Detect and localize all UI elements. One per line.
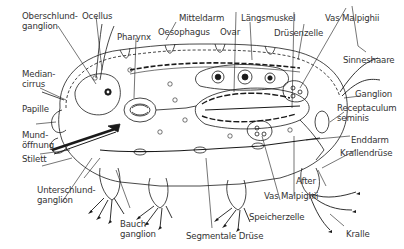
label-pharynx: Pharynx (117, 32, 151, 42)
label-kralle: Kralle (346, 229, 370, 239)
label-vas-malpighii-top: Vas Malpighii (325, 13, 379, 23)
label-druesenzelle: Drüsenzelle (274, 28, 323, 38)
label-papille: Papille (22, 104, 49, 114)
label-unterschlundganglion: Unterschlund- ganglion (37, 185, 95, 205)
label-mundoeffnung: Mund- öffnung (22, 130, 54, 150)
label-segmentale-druese: Segmentale Drüse (186, 231, 263, 241)
oberschlundganglion-shape (75, 74, 120, 115)
label-bauchganglion: Bauch- ganglion (120, 219, 156, 239)
label-sinneshaare: Sinneshaare (343, 55, 394, 65)
label-enddarm: Enddarm (351, 135, 389, 145)
label-mediancirrus: Median- cirrus (22, 69, 55, 89)
label-vas-malpighii-bottom: Vas Malpighii (264, 191, 318, 201)
label-mitteldarm: Mitteldarm (179, 13, 224, 23)
label-oesophagus: Oesophagus (158, 27, 210, 37)
label-laengsmuskel: Längsmuskel (241, 13, 295, 23)
ventral-nerve-cord (100, 138, 320, 152)
label-speicherzelle: Speicherzelle (249, 212, 305, 222)
label-ganglion: Ganglion (355, 89, 392, 99)
label-ocellus: Ocellus (82, 11, 112, 21)
body-illustration (0, 0, 404, 249)
tardigrade-diagram: Oberschlund- ganglion Ocellus Pharynx Oe… (0, 0, 404, 249)
label-receptaculum-seminis: Receptaculum seminis (337, 103, 397, 123)
label-oberschlundganglion: Oberschlund- ganglion (22, 11, 78, 31)
label-stilett: Stilett (22, 154, 47, 164)
pharynx-shape (124, 98, 156, 122)
label-ovar: Ovar (220, 27, 240, 37)
label-krallendruese: Krallendrüse (340, 148, 392, 158)
label-after: After (296, 176, 316, 186)
